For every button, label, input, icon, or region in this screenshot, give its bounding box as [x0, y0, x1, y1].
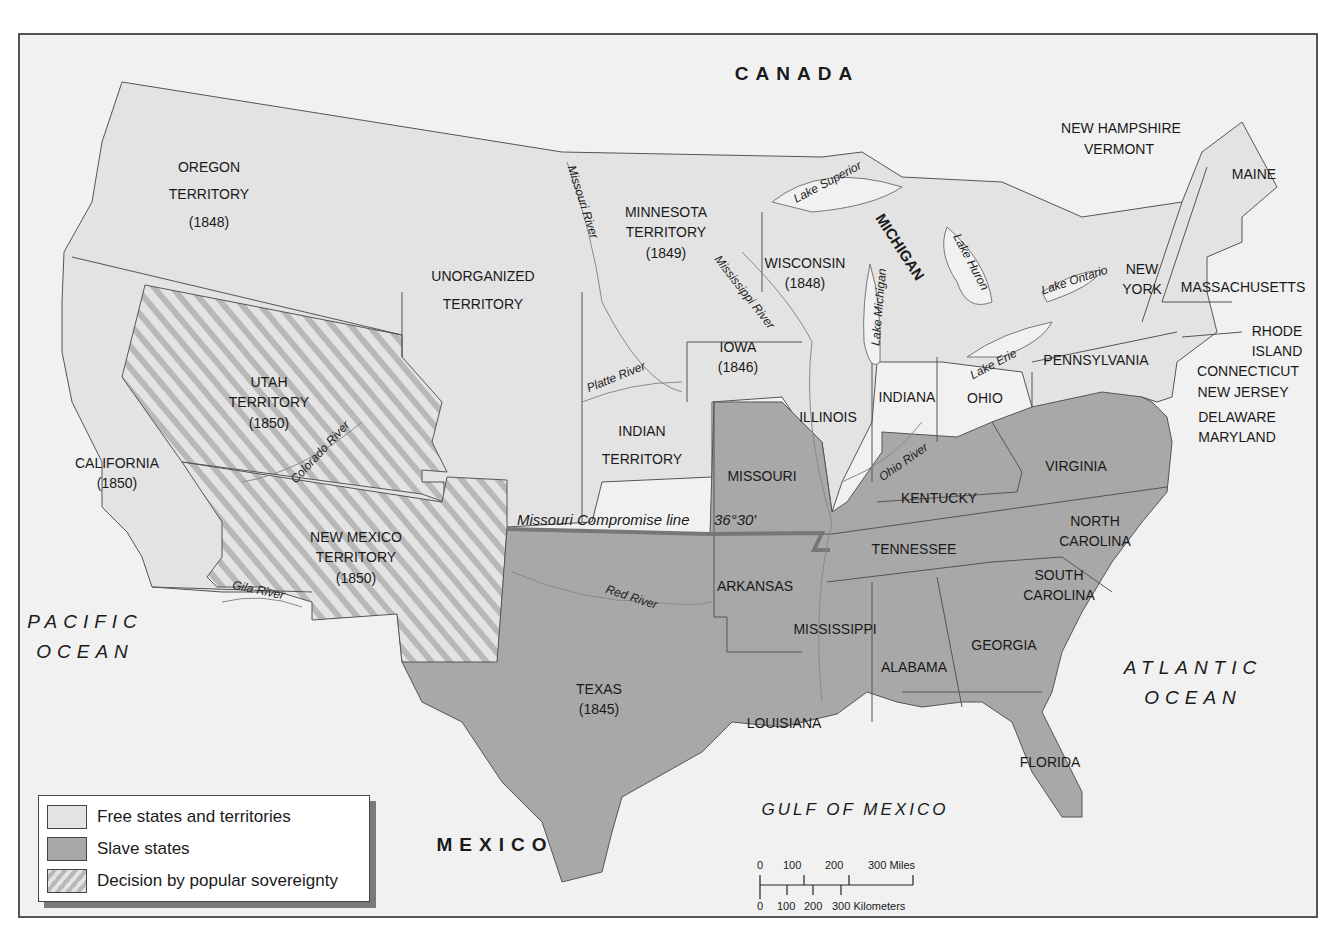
label-new-jersey: NEW JERSEY [1197, 382, 1288, 402]
label-indiana: INDIANA [879, 387, 936, 407]
oregon-line2: TERRITORY [169, 181, 249, 208]
indian-line2: TERRITORY [602, 445, 682, 473]
legend-swatch-popular-sovereignty [47, 869, 87, 893]
scale-km-200: 200 [804, 900, 822, 912]
label-maryland: MARYLAND [1198, 427, 1276, 447]
legend-item-free: Free states and territories [47, 804, 291, 830]
new-mexico-line2: TERRITORY [310, 547, 402, 567]
north-carolina-line2: CAROLINA [1059, 531, 1131, 551]
iowa-name: IOWA [718, 337, 758, 357]
label-oregon-territory: OREGON TERRITORY (1848) [169, 154, 249, 236]
scale-miles-100: 100 [783, 859, 801, 871]
pacific-line1: PACIFIC [27, 607, 143, 637]
label-california: CALIFORNIA (1850) [75, 453, 159, 494]
legend-item-slave: Slave states [47, 836, 190, 862]
label-massachusetts: MASSACHUSETTS [1181, 277, 1305, 297]
utah-line2: TERRITORY [229, 392, 309, 412]
label-arkansas: ARKANSAS [717, 576, 793, 596]
unorganized-name: UNORGANIZED [431, 262, 534, 290]
california-year: (1850) [75, 473, 159, 493]
label-virginia: VIRGINIA [1045, 456, 1106, 476]
label-compromise-line: Missouri Compromise line [517, 511, 690, 528]
map-frame: CANADA MEXICO PACIFIC OCEAN ATLANTIC OCE… [18, 33, 1318, 918]
new-york-line1: NEW [1122, 259, 1162, 279]
label-rhode-island: RHODE ISLAND [1252, 321, 1303, 362]
south-carolina-line1: SOUTH [1023, 565, 1095, 585]
label-alabama: ALABAMA [881, 657, 947, 677]
atlantic-line1: ATLANTIC [1124, 653, 1262, 683]
minnesota-name: MINNESOTA [625, 202, 707, 222]
scale-km-300: 300 Kilometers [832, 900, 905, 912]
new-mexico-name: NEW MEXICO [310, 527, 402, 547]
label-delaware: DELAWARE [1198, 407, 1276, 427]
utah-year: (1850) [229, 412, 309, 432]
utah-name: UTAH [229, 372, 309, 392]
label-unorganized-territory: UNORGANIZED TERRITORY [431, 262, 534, 318]
scale-miles-0: 0 [757, 859, 763, 871]
pacific-line2: OCEAN [27, 637, 143, 667]
oregon-name: OREGON [169, 154, 249, 181]
iowa-year: (1846) [718, 357, 758, 377]
label-georgia: GEORGIA [971, 635, 1036, 655]
atlantic-line2: OCEAN [1124, 683, 1262, 713]
oregon-year: (1848) [169, 209, 249, 236]
south-carolina-line2: CAROLINA [1023, 585, 1095, 605]
wisconsin-year: (1848) [765, 273, 846, 293]
legend: Free states and territories Slave states… [38, 795, 370, 902]
label-illinois: ILLINOIS [799, 407, 857, 427]
label-gulf-of-mexico: GULF OF MEXICO [762, 796, 949, 823]
legend-item-popular-sovereignty: Decision by popular sovereignty [47, 868, 338, 894]
label-vermont: VERMONT [1084, 139, 1154, 159]
label-florida: FLORIDA [1020, 752, 1081, 772]
scale-km-100: 100 [777, 900, 795, 912]
label-louisiana: LOUISIANA [747, 713, 822, 733]
legend-label-slave: Slave states [97, 839, 190, 859]
label-new-hampshire: NEW HAMPSHIRE [1061, 118, 1181, 138]
new-york-line2: YORK [1122, 279, 1162, 299]
legend-swatch-slave [47, 837, 87, 861]
label-canada: CANADA [735, 63, 859, 85]
indian-name: INDIAN [602, 417, 682, 445]
label-maine: MAINE [1232, 164, 1276, 184]
north-carolina-line1: NORTH [1059, 511, 1131, 531]
wisconsin-name: WISCONSIN [765, 253, 846, 273]
label-mexico: MEXICO [437, 834, 554, 856]
label-north-carolina: NORTH CAROLINA [1059, 511, 1131, 552]
label-kentucky: KENTUCKY [901, 488, 977, 508]
label-ohio: OHIO [967, 388, 1003, 408]
label-wisconsin: WISCONSIN (1848) [765, 253, 846, 294]
texas-name: TEXAS [576, 679, 622, 699]
label-utah-territory: UTAH TERRITORY (1850) [229, 372, 309, 433]
legend-label-free: Free states and territories [97, 807, 291, 827]
rhode-island-line2: ISLAND [1252, 341, 1303, 361]
label-compromise-latitude: 36°30' [714, 511, 756, 528]
label-iowa: IOWA (1846) [718, 337, 758, 378]
texas-year: (1845) [576, 699, 622, 719]
legend-label-popular-sovereignty: Decision by popular sovereignty [97, 871, 338, 891]
label-connecticut: CONNECTICUT [1197, 361, 1299, 381]
label-atlantic-ocean: ATLANTIC OCEAN [1124, 653, 1262, 714]
minnesota-year: (1849) [625, 242, 707, 262]
label-new-mexico-territory: NEW MEXICO TERRITORY (1850) [310, 527, 402, 588]
scale-ruler [755, 873, 955, 903]
scale-miles-200: 200 [825, 859, 843, 871]
scale-miles-300: 300 Miles [868, 859, 915, 871]
label-south-carolina: SOUTH CAROLINA [1023, 565, 1095, 606]
california-name: CALIFORNIA [75, 453, 159, 473]
label-pennsylvania: PENNSYLVANIA [1043, 350, 1148, 370]
scale-bar: 0 100 200 300 Miles 0 100 200 300 Kilome… [755, 855, 955, 915]
unorganized-line2: TERRITORY [431, 290, 534, 318]
legend-swatch-free [47, 805, 87, 829]
label-indian-territory: INDIAN TERRITORY [602, 417, 682, 473]
new-mexico-year: (1850) [310, 567, 402, 587]
label-pacific-ocean: PACIFIC OCEAN [27, 607, 143, 668]
rhode-island-line1: RHODE [1252, 321, 1303, 341]
label-minnesota-territory: MINNESOTA TERRITORY (1849) [625, 202, 707, 263]
label-missouri: MISSOURI [727, 466, 796, 486]
label-texas: TEXAS (1845) [576, 679, 622, 720]
label-mississippi: MISSISSIPPI [793, 619, 876, 639]
minnesota-line2: TERRITORY [625, 222, 707, 242]
scale-km-0: 0 [757, 900, 763, 912]
label-new-york: NEW YORK [1122, 259, 1162, 300]
label-tennessee: TENNESSEE [872, 539, 957, 559]
